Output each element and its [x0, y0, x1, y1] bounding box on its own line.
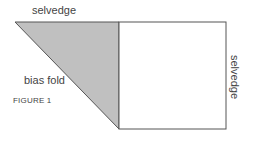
figure-caption: FIGURE 1	[13, 96, 52, 105]
fabric-square	[119, 22, 226, 129]
right-selvedge-text: selvedge	[229, 55, 241, 99]
top-selvedge-label: selvedge	[32, 4, 76, 16]
bias-fold-label: bias fold	[24, 74, 65, 86]
fabric-diagram	[0, 0, 253, 145]
